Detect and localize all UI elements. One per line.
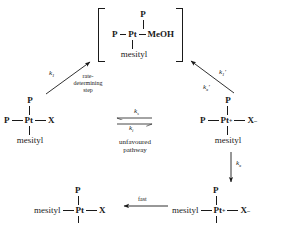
unfavoured-pathway-note: unfavoured pathway bbox=[104, 138, 166, 154]
label-ks: ks bbox=[134, 108, 139, 115]
bracket-left bbox=[98, 8, 105, 62]
label-kx-subscript: x bbox=[239, 163, 241, 168]
species-product: P mesityl Pt X bbox=[34, 186, 130, 224]
ion-pair-bottom-bond bbox=[227, 126, 228, 135]
bond-horizontal bbox=[120, 34, 127, 35]
bracket-right bbox=[176, 8, 183, 62]
label-ks-subscript: s bbox=[137, 111, 139, 116]
intermediate-left-atom: P bbox=[112, 30, 118, 39]
reaction-scheme-diagram: P P Pt MeOH mesityl P P Pt X mesityl P P bbox=[0, 0, 284, 231]
ion-pair-left-atom: P bbox=[200, 116, 206, 125]
isomer-metal-atom: Pt bbox=[214, 206, 223, 215]
rate-determining-line-3: step bbox=[68, 87, 108, 94]
product-left-ligand: mesityl bbox=[34, 206, 61, 215]
product-top-atom: P bbox=[34, 186, 159, 195]
reactant-top-bond bbox=[29, 106, 30, 115]
isomer-top-atom: P bbox=[172, 186, 284, 195]
ion-pair-bottom-ligand: mesityl bbox=[200, 136, 256, 145]
isomer-main-row: mesityl Pt + X – bbox=[172, 206, 284, 215]
reactant-bottom-ligand: mesityl bbox=[4, 136, 56, 145]
bond-horizontal bbox=[208, 120, 219, 121]
reactant-top-atom: P bbox=[4, 96, 56, 105]
isomer-halide: X bbox=[240, 206, 247, 215]
intermediate-right-ligand: MeOH bbox=[148, 30, 175, 39]
bond-horizontal bbox=[201, 210, 212, 211]
unfavoured-pathway-line-1: unfavoured bbox=[104, 138, 166, 146]
reactant-main-row: P Pt X bbox=[4, 116, 70, 125]
product-metal-atom: Pt bbox=[76, 206, 85, 215]
isomer-bottom-bond-stub bbox=[216, 216, 217, 223]
bond-horizontal bbox=[12, 120, 23, 121]
label-ki: ki bbox=[129, 125, 134, 132]
isomer-left-ligand: mesityl bbox=[172, 206, 199, 215]
ion-pair-metal-atom: Pt bbox=[221, 116, 230, 125]
species-reactant: P P Pt X mesityl bbox=[4, 96, 70, 145]
isomer-top-bond bbox=[216, 196, 217, 205]
label-k1-subscript: 1 bbox=[52, 73, 55, 78]
bond-horizontal bbox=[234, 120, 245, 121]
reactant-metal-atom: Pt bbox=[25, 116, 34, 125]
label-kx-prime: kx′ bbox=[203, 84, 210, 91]
label-ki-subscript: i bbox=[132, 128, 133, 133]
fast-label-text: fast bbox=[138, 196, 147, 202]
intermediate-bottom-bond bbox=[132, 40, 133, 49]
ion-pair-halide: X bbox=[247, 116, 254, 125]
reactant-bottom-bond bbox=[29, 126, 30, 135]
product-halide: X bbox=[99, 206, 106, 215]
reactant-halide: X bbox=[48, 116, 55, 125]
species-isomer-ion-pair: P mesityl Pt + X – bbox=[172, 186, 284, 224]
intermediate-top-atom: P bbox=[112, 10, 174, 19]
species-ion-pair: P P Pt + X – mesityl bbox=[200, 96, 278, 145]
label-kx-prime-mark: ′ bbox=[208, 83, 210, 91]
intermediate-metal-atom: Pt bbox=[128, 30, 137, 39]
ion-pair-main-row: P Pt + X – bbox=[200, 116, 278, 125]
species-intermediate: P P Pt MeOH mesityl bbox=[112, 10, 174, 59]
fast-label: fast bbox=[138, 196, 147, 202]
label-k1-prime-mark: ′ bbox=[225, 68, 227, 76]
bond-horizontal bbox=[227, 210, 238, 211]
reactant-left-atom: P bbox=[4, 116, 10, 125]
intermediate-bottom-ligand: mesityl bbox=[112, 50, 156, 59]
ion-pair-top-bond bbox=[227, 106, 228, 115]
ion-pair-top-atom: P bbox=[200, 96, 256, 105]
product-top-bond bbox=[78, 196, 79, 205]
rate-determining-note: rate- determining step bbox=[68, 73, 108, 94]
rate-determining-line-1: rate- bbox=[68, 73, 108, 80]
intermediate-top-bond bbox=[143, 20, 144, 29]
label-k1: k1 bbox=[49, 70, 55, 77]
product-main-row: mesityl Pt X bbox=[34, 206, 130, 215]
intermediate-main-row: P Pt MeOH bbox=[112, 30, 174, 39]
bond-horizontal bbox=[35, 120, 46, 121]
bond-horizontal bbox=[86, 210, 97, 211]
unfavoured-pathway-line-2: pathway bbox=[104, 146, 166, 154]
label-kx: kx bbox=[236, 160, 241, 167]
label-k1-prime: k1′ bbox=[219, 69, 226, 76]
product-bottom-bond-stub bbox=[78, 216, 79, 223]
rate-determining-line-2: determining bbox=[68, 80, 108, 87]
bond-horizontal bbox=[63, 210, 74, 211]
bond-horizontal bbox=[139, 34, 146, 35]
arrow-k1-prime bbox=[191, 61, 234, 93]
